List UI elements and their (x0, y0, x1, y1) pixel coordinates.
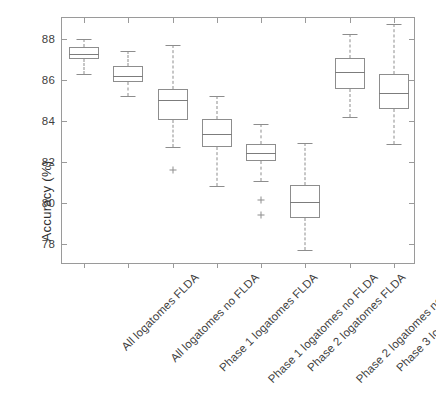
x-tick-mark (217, 263, 218, 268)
iqr-rect (202, 119, 232, 147)
x-tick-mark (173, 263, 174, 268)
lower-whisker-cap (386, 144, 401, 145)
upper-whisker-line (84, 39, 85, 47)
boxplot-box (372, 18, 416, 263)
lower-whisker-line (261, 161, 262, 181)
x-tick-mark (128, 263, 129, 268)
x-tick-mark (261, 263, 262, 268)
lower-whisker-line (349, 89, 350, 117)
upper-whisker-line (216, 96, 217, 119)
lower-whisker-cap (209, 186, 224, 187)
iqr-rect (158, 89, 188, 120)
boxplot-box (62, 18, 106, 263)
upper-whisker-cap (386, 24, 401, 25)
y-tick-label: 84 (42, 115, 55, 127)
outlier-marker (258, 197, 265, 204)
upper-whisker-cap (165, 45, 180, 46)
outlier-marker (258, 211, 265, 218)
median-line (202, 134, 232, 135)
y-tick-label: 80 (42, 197, 55, 209)
iqr-rect (69, 47, 99, 59)
lower-whisker-cap (342, 117, 357, 118)
iqr-rect (379, 74, 409, 109)
upper-whisker-cap (342, 34, 357, 35)
y-tick-label: 82 (42, 156, 55, 168)
upper-whisker-cap (121, 51, 136, 52)
boxplot-box (283, 18, 327, 263)
x-tick-mark (305, 263, 306, 268)
x-tick-label: Phase 1 logatomes FLDA (217, 271, 320, 374)
upper-whisker-line (128, 51, 129, 66)
iqr-rect (113, 66, 143, 81)
lower-whisker-cap (165, 147, 180, 148)
iqr-rect (290, 185, 320, 218)
boxplot-box (195, 18, 239, 263)
lower-whisker-cap (77, 74, 92, 75)
lower-whisker-line (84, 59, 85, 73)
upper-whisker-line (305, 143, 306, 185)
boxplot-box (328, 18, 372, 263)
boxplot-box (239, 18, 283, 263)
upper-whisker-cap (77, 39, 92, 40)
median-line (69, 54, 99, 55)
lower-whisker-line (393, 109, 394, 144)
upper-whisker-line (261, 124, 262, 144)
upper-whisker-line (349, 34, 350, 58)
outlier-marker (169, 167, 176, 174)
lower-whisker-cap (121, 96, 136, 97)
lower-whisker-cap (298, 250, 313, 251)
y-tick-label: 88 (42, 33, 55, 45)
boxplot-box (106, 18, 150, 263)
median-line (246, 153, 276, 154)
upper-whisker-cap (254, 124, 269, 125)
y-tick-label: 86 (42, 74, 55, 86)
x-tick-mark (84, 263, 85, 268)
figure-canvas: Accuracy (%) 788082848688 All logatomes … (0, 0, 436, 401)
iqr-rect (335, 58, 365, 89)
lower-whisker-line (172, 120, 173, 147)
x-tick-mark (350, 263, 351, 268)
upper-whisker-line (393, 24, 394, 73)
upper-whisker-line (172, 45, 173, 89)
boxplot-box (151, 18, 195, 263)
median-line (113, 76, 143, 77)
lower-whisker-line (216, 147, 217, 186)
median-line (335, 72, 365, 73)
median-line (290, 202, 320, 203)
lower-whisker-cap (254, 181, 269, 182)
upper-whisker-cap (298, 143, 313, 144)
lower-whisker-line (128, 82, 129, 96)
x-tick-mark (394, 263, 395, 268)
plot-area: 788082848688 (61, 17, 415, 264)
lower-whisker-line (305, 218, 306, 250)
median-line (379, 93, 409, 94)
median-line (158, 100, 188, 101)
upper-whisker-cap (209, 96, 224, 97)
y-tick-label: 78 (42, 238, 55, 250)
